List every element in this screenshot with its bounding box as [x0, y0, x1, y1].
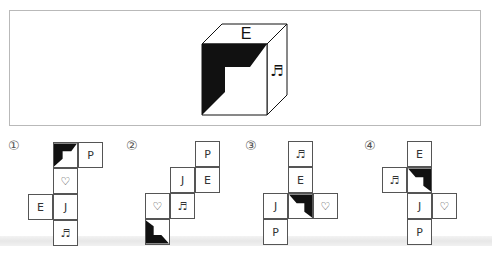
net-cell: E [288, 167, 313, 193]
face-letter: E [37, 201, 44, 214]
option-1-label[interactable]: ① [8, 138, 20, 153]
face-letter: J [181, 174, 184, 187]
face-letter: E [204, 174, 211, 187]
net-cell: P [263, 219, 288, 245]
net-cell: ♡ [53, 168, 78, 194]
heart-icon: ♡ [61, 175, 71, 188]
cube-right-label: ♬ [270, 62, 283, 80]
net-cell: E [407, 141, 432, 167]
music-notes-icon: ♬ [61, 227, 71, 240]
face-letter: J [418, 200, 421, 213]
net-cell: ♡ [313, 193, 338, 219]
net-cell: J [407, 193, 432, 219]
net-cell: ♡ [145, 193, 170, 219]
face-letter: P [87, 149, 94, 162]
net-cell [288, 193, 313, 219]
net-cell: J [263, 193, 288, 219]
net-cell: ♬ [170, 193, 195, 219]
net-cell: ♬ [288, 141, 313, 167]
net-cell [145, 219, 170, 245]
net-cell: ♡ [432, 193, 457, 219]
face-letter: E [297, 174, 304, 187]
option-2-label[interactable]: ② [126, 138, 138, 153]
music-notes-icon: ♬ [296, 148, 306, 161]
heart-icon: ♡ [153, 200, 163, 213]
face-letter: P [416, 226, 423, 239]
face-letter: P [272, 226, 279, 239]
heart-icon: ♡ [321, 200, 331, 213]
shaded-l-shape-icon [289, 194, 312, 218]
net-cell: ♬ [53, 220, 78, 246]
music-notes-icon: ♬ [178, 200, 188, 213]
option-4-label[interactable]: ④ [364, 138, 376, 153]
shaded-l-shape-icon [408, 168, 431, 192]
face-letter: J [64, 201, 67, 214]
cube-figure: E ♬ [190, 14, 300, 124]
cube-top-label: E [241, 25, 252, 42]
shaded-l-shape-icon [54, 143, 77, 167]
option-3-label[interactable]: ③ [245, 138, 257, 153]
net-cell: ♬ [382, 167, 407, 193]
music-notes-icon: ♬ [390, 174, 400, 187]
shaded-l-shape-icon [146, 220, 169, 244]
net-cell: J [170, 167, 195, 193]
face-letter: P [204, 148, 211, 161]
net-cell: P [195, 141, 220, 167]
net-cell: E [28, 194, 53, 220]
net-cell [53, 142, 78, 168]
net-cell [407, 167, 432, 193]
net-cell: E [195, 167, 220, 193]
face-letter: E [416, 148, 423, 161]
net-cell: J [53, 194, 78, 220]
heart-icon: ♡ [440, 200, 450, 213]
face-letter: J [274, 200, 277, 213]
net-cell: P [407, 219, 432, 245]
net-cell: P [78, 142, 103, 168]
